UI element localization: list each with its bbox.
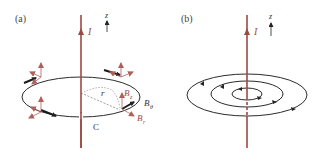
panel-b: (b) I z (181, 12, 307, 148)
current-arrow-icon (78, 28, 84, 35)
radius-label: r (101, 88, 105, 98)
ampere-law-diagram: (a) I z r C B z B θ B r (0, 0, 326, 155)
z-axis-label-a: z (104, 11, 109, 20)
current-label-a: I (87, 26, 92, 37)
btheta-label: B θ (144, 98, 153, 110)
panel-a: (a) I z r C B z B θ B r (15, 11, 153, 148)
panel-b-label: (b) (181, 13, 193, 25)
loop-label-c: C (93, 122, 99, 132)
z-axis-label-b: z (268, 12, 273, 21)
current-arrow-icon-b (244, 28, 250, 35)
svg-text:z: z (129, 94, 133, 100)
panel-a-label: (a) (15, 13, 26, 25)
bz-label: B z (124, 88, 133, 100)
svg-text:r: r (143, 119, 146, 125)
current-label-b: I (253, 26, 258, 37)
svg-text:θ: θ (150, 104, 153, 110)
br-label: B r (137, 113, 146, 125)
